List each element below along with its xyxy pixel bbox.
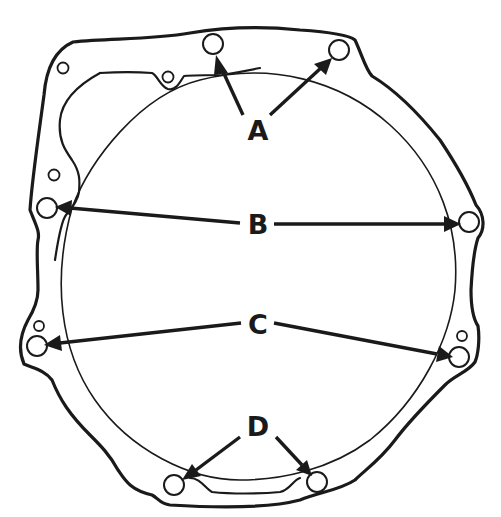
dowel-hole bbox=[58, 63, 69, 74]
dowel-hole bbox=[163, 72, 174, 83]
leader-line bbox=[276, 437, 302, 465]
callout-b: B bbox=[55, 200, 461, 240]
arrowhead-icon bbox=[55, 200, 72, 216]
dowel-hole bbox=[457, 331, 467, 341]
arrowhead-icon bbox=[214, 55, 228, 75]
leader-line bbox=[70, 208, 240, 223]
dowel-holes bbox=[34, 63, 467, 342]
callout-label-c: C bbox=[248, 309, 268, 340]
bolt-hole-a2 bbox=[329, 40, 349, 60]
gasket-diagram: A B C D bbox=[0, 0, 501, 517]
bolt-hole-b1 bbox=[37, 198, 57, 218]
leader-line bbox=[196, 437, 240, 470]
callout-label-b: B bbox=[248, 209, 269, 240]
bolt-hole-d1 bbox=[164, 475, 184, 495]
bolt-hole-b2 bbox=[459, 212, 479, 232]
callout-label-a: A bbox=[248, 115, 269, 146]
callout-c: C bbox=[44, 309, 453, 362]
callout-a: A bbox=[214, 55, 332, 146]
leader-line bbox=[274, 323, 437, 354]
callout-d: D bbox=[182, 411, 312, 480]
dowel-hole bbox=[49, 170, 60, 181]
callout-label-d: D bbox=[247, 411, 269, 442]
bolt-hole-a1 bbox=[203, 34, 223, 54]
leader-line bbox=[60, 323, 241, 343]
bolt-hole-c1 bbox=[27, 336, 47, 356]
arrowhead-icon bbox=[444, 216, 461, 232]
dowel-hole bbox=[34, 321, 44, 331]
